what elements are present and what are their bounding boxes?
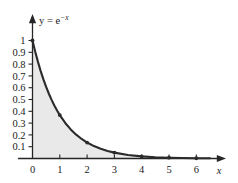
x-tick-label: 6 xyxy=(194,164,199,175)
curve-marker-dot xyxy=(194,156,198,160)
curve-equation-exponent: −x xyxy=(60,13,69,22)
curve-marker-dot xyxy=(85,141,89,145)
x-tick-label: 1 xyxy=(57,164,62,175)
y-tick-label: 0.4 xyxy=(12,106,26,117)
y-tick-label: 0.6 xyxy=(12,82,25,93)
x-tick-label: 5 xyxy=(166,164,171,175)
y-tick-label: 1 xyxy=(20,35,25,46)
x-tick-label: 0 xyxy=(30,164,35,175)
y-tick-label: 0.7 xyxy=(12,71,25,82)
x-tick-label: 4 xyxy=(139,164,145,175)
curve-marker-dot xyxy=(31,39,35,43)
y-axis-tick-labels: 0.10.20.30.40.50.60.70.80.91 xyxy=(12,35,26,152)
x-axis-arrow-icon xyxy=(217,155,226,162)
curve-equation-base: y = e xyxy=(39,15,60,26)
curve-marker-dot xyxy=(113,151,117,155)
curve-marker-dot xyxy=(58,113,62,117)
curve-equation-label: y = e−x xyxy=(39,13,69,26)
curve-marker-dot xyxy=(167,156,171,160)
y-tick-label: 0.3 xyxy=(12,118,25,129)
y-tick-label: 0.5 xyxy=(12,94,25,105)
plot-canvas: 0.10.20.30.40.50.60.70.80.91 0123456 x y… xyxy=(0,0,238,183)
y-tick-label: 0.8 xyxy=(12,59,25,70)
y-tick-label: 0.1 xyxy=(12,141,25,152)
x-tick-label: 2 xyxy=(84,164,89,175)
y-axis-arrow-icon xyxy=(29,14,36,23)
x-axis-label: x xyxy=(216,165,222,176)
curve-marker-dot xyxy=(140,154,144,158)
exponential-decay-figure: 0.10.20.30.40.50.60.70.80.91 0123456 x y… xyxy=(0,0,238,183)
y-tick-label: 0.2 xyxy=(12,130,25,141)
y-tick-label: 0.9 xyxy=(12,47,25,58)
x-tick-label: 3 xyxy=(112,164,117,175)
x-axis-tick-labels: 0123456 xyxy=(30,164,199,175)
shaded-area-under-curve xyxy=(33,41,197,159)
